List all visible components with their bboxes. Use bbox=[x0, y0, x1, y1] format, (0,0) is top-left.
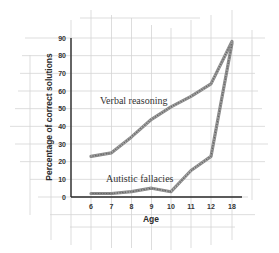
x-tick-label: 18 bbox=[228, 203, 236, 210]
series-label-verbal-reasoning: Verbal reasoning bbox=[100, 95, 167, 106]
y-tick-label: 50 bbox=[58, 105, 66, 112]
x-axis-title: Age bbox=[143, 214, 159, 224]
x-tick-labels: 6 7 8 9 10 11 12 18 bbox=[89, 203, 236, 210]
series-label-autistic-fallacies: Autistic fallacies bbox=[106, 173, 174, 184]
line-chart: 0 10 20 30 40 50 60 70 80 90 6 7 8 9 10 … bbox=[0, 0, 279, 253]
x-tick-label: 11 bbox=[187, 203, 195, 210]
x-tick-label: 6 bbox=[89, 203, 93, 210]
y-tick-label: 10 bbox=[58, 176, 66, 183]
y-tick-label: 90 bbox=[58, 35, 66, 42]
y-tick-label: 60 bbox=[58, 88, 66, 95]
x-tick-label: 8 bbox=[130, 203, 134, 210]
x-tick-label: 12 bbox=[207, 203, 215, 210]
x-tick-label: 9 bbox=[150, 203, 154, 210]
y-tick-labels: 0 10 20 30 40 50 60 70 80 90 bbox=[58, 35, 66, 201]
x-tick-label: 10 bbox=[167, 203, 175, 210]
x-tick-label: 7 bbox=[110, 203, 114, 210]
y-tick-label: 30 bbox=[58, 141, 66, 148]
y-tick-label: 20 bbox=[58, 158, 66, 165]
y-tick-label: 40 bbox=[58, 123, 66, 130]
y-tick-label: 0 bbox=[62, 194, 66, 201]
y-tick-label: 70 bbox=[58, 70, 66, 77]
y-axis-title: Percentage of correct solutions bbox=[44, 53, 54, 181]
y-tick-label: 80 bbox=[58, 52, 66, 59]
